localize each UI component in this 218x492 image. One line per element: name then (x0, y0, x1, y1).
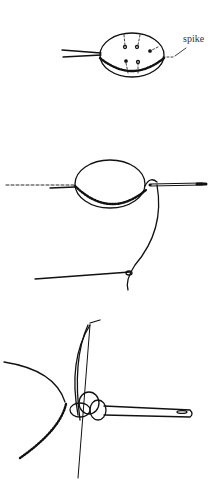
spike-label: spike (183, 33, 204, 44)
panel-1-oval-with-spikes (62, 33, 186, 77)
stitch-illustration (0, 0, 218, 492)
panel-2-oval-and-needles (6, 160, 206, 290)
panel-3-french-knot (4, 320, 192, 478)
